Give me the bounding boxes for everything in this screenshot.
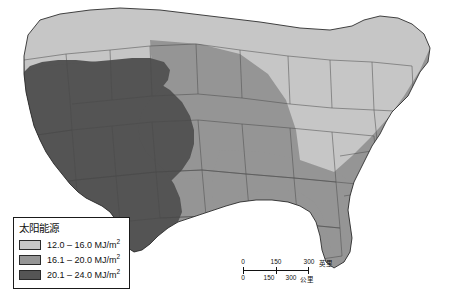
scale-km-unit: 公里 bbox=[300, 274, 314, 284]
legend-swatch-low bbox=[19, 240, 41, 250]
scale-miles-unit: 英里 bbox=[319, 258, 333, 268]
legend-item-medium: 16.1 – 20.0 MJ/m2 bbox=[19, 253, 124, 267]
scale-km-tick-1: 150 bbox=[264, 274, 275, 281]
legend-item-high: 20.1 – 24.0 MJ/m2 bbox=[19, 268, 124, 282]
legend-label-low: 12.0 – 16.0 MJ/m2 bbox=[47, 240, 120, 251]
scale-miles-tick-0: 0 bbox=[241, 258, 245, 265]
legend-label-high: 20.1 – 24.0 MJ/m2 bbox=[47, 270, 120, 281]
scale-ruler-tick-2 bbox=[308, 267, 309, 274]
legend-swatch-high bbox=[19, 270, 41, 280]
legend-label-medium: 16.1 – 20.0 MJ/m2 bbox=[47, 255, 120, 266]
legend-title: 太阳能源 bbox=[19, 222, 124, 235]
scale-ruler bbox=[243, 267, 309, 274]
solar-energy-map-page: 太阳能源 12.0 – 16.0 MJ/m2 16.1 – 20.0 MJ/m2… bbox=[0, 0, 449, 308]
scale-km-tick-2: 300 bbox=[286, 274, 297, 281]
scale-kilometers-numbers: 0 150 300 公里 bbox=[243, 274, 341, 283]
legend: 太阳能源 12.0 – 16.0 MJ/m2 16.1 – 20.0 MJ/m2… bbox=[13, 217, 130, 289]
scale-ruler-tick-1 bbox=[276, 267, 277, 274]
scale-miles-numbers: 0 150 300 英里 bbox=[243, 258, 341, 267]
scale-miles-tick-1: 150 bbox=[271, 258, 282, 265]
scale-km-tick-0: 0 bbox=[241, 274, 245, 281]
scale-miles-tick-2: 300 bbox=[304, 258, 315, 265]
scale-ruler-tick-0 bbox=[243, 267, 244, 274]
legend-item-low: 12.0 – 16.0 MJ/m2 bbox=[19, 238, 124, 252]
legend-swatch-medium bbox=[19, 255, 41, 265]
scale-bar: 0 150 300 英里 0 150 300 公里 bbox=[243, 258, 341, 292]
